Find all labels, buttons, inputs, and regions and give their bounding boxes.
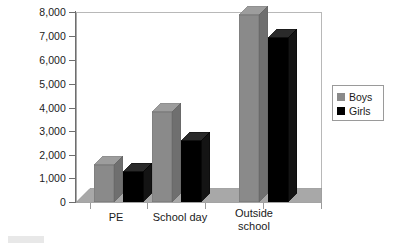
y-tick-label-5000: 5,000 bbox=[6, 79, 66, 90]
legend-item-boys[interactable]: Boys bbox=[337, 90, 383, 104]
x-tick-0 bbox=[90, 203, 91, 209]
x-tick-2 bbox=[205, 203, 206, 209]
y-tick-label-7000: 7,000 bbox=[6, 31, 66, 42]
legend-item-girls[interactable]: Girls bbox=[337, 104, 383, 118]
y-tick-7000 bbox=[69, 36, 76, 37]
bar-outside-school-boys bbox=[239, 6, 268, 202]
y-tick-8000 bbox=[69, 12, 76, 13]
legend-label-boys: Boys bbox=[349, 92, 372, 103]
y-tick-label-8000: 8,000 bbox=[6, 7, 66, 18]
y-tick-1000 bbox=[69, 178, 76, 179]
bar-school-day-boys bbox=[152, 103, 181, 202]
bar-school-day-girls bbox=[181, 132, 210, 202]
y-tick-5000 bbox=[69, 84, 76, 85]
y-tick-label-3000: 3,000 bbox=[6, 126, 66, 137]
y-tick-3000 bbox=[69, 131, 76, 132]
x-label-outside-school-line1: Outside bbox=[215, 207, 293, 220]
bar-outside-school-girls bbox=[268, 29, 297, 202]
y-tick-label-6000: 6,000 bbox=[6, 55, 66, 66]
y-tick-0 bbox=[69, 202, 76, 203]
y-tick-4000 bbox=[69, 108, 76, 109]
bar-pe-girls bbox=[123, 163, 152, 202]
y-tick-2000 bbox=[69, 155, 76, 156]
y-tick-label-0: 0 bbox=[6, 197, 66, 208]
y-tick-6000 bbox=[69, 60, 76, 61]
legend-swatch-boys-icon bbox=[337, 93, 345, 101]
page-artifact bbox=[8, 236, 44, 243]
legend-label-girls: Girls bbox=[349, 106, 371, 117]
bar-chart: 8,000 7,000 6,000 5,000 4,000 3,000 2,00… bbox=[0, 0, 400, 248]
x-tick-1 bbox=[147, 203, 148, 209]
y-tick-label-2000: 2,000 bbox=[6, 150, 66, 161]
y-tick-label-1000: 1,000 bbox=[6, 173, 66, 184]
legend: Boys Girls bbox=[332, 85, 384, 121]
bar-pe-boys bbox=[94, 156, 123, 202]
y-tick-label-4000: 4,000 bbox=[6, 103, 66, 114]
x-label-outside-school-line2: school bbox=[215, 220, 293, 233]
y-axis-line bbox=[75, 11, 76, 203]
x-label-pe: PE bbox=[86, 211, 146, 224]
x-tick-4 bbox=[321, 203, 322, 209]
x-label-school-day: School day bbox=[141, 211, 219, 224]
legend-swatch-girls-icon bbox=[337, 107, 345, 115]
